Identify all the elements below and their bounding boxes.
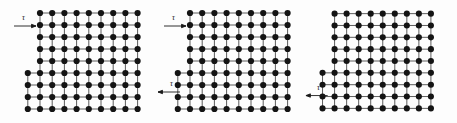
bond-group-2: [178, 13, 288, 109]
shear-stress-label-top-2: τ: [172, 14, 175, 22]
panel-dislocation-left: τ: [0, 0, 152, 123]
shear-stress-label-bottom-2: τ: [170, 80, 173, 88]
shear-arrow-top-2: [164, 24, 186, 27]
panel-slip-step: τ: [303, 0, 455, 123]
shear-arrow-bottom-2: [158, 90, 180, 93]
panel-dislocation-centre: τ τ: [152, 0, 304, 123]
shear-stress-label-bottom-3: τ: [317, 84, 320, 92]
bond-group-3: [323, 14, 431, 109]
bond-group-1: [28, 13, 138, 109]
shear-stress-label-top-1: τ: [22, 14, 25, 22]
shear-arrow-top-1: [14, 24, 36, 27]
dislocation-figure: τ: [0, 0, 457, 123]
lattice-diagram-3: [303, 0, 455, 123]
